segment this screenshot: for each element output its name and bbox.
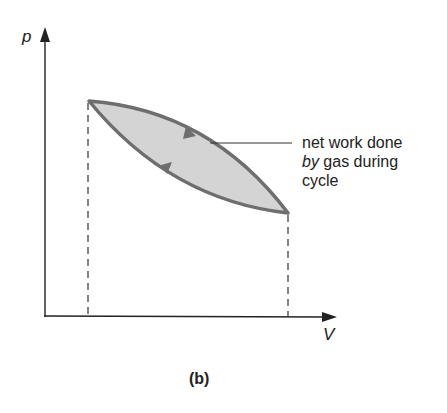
- cycle-area: [89, 101, 288, 213]
- x-axis: [44, 316, 324, 317]
- annotation-by: by: [302, 153, 319, 170]
- annotation-line-3: cycle: [302, 171, 403, 190]
- x-axis-label: V: [323, 325, 334, 344]
- figure-caption: (b): [189, 369, 209, 388]
- annotation-line-1: net work done: [302, 133, 403, 152]
- annotation-line-2: by gas during: [302, 152, 403, 171]
- annotation-text: net work done by gas during cycle: [302, 133, 403, 190]
- annotation-gas-during: gas during: [319, 153, 398, 170]
- y-axis-arrow-icon: [40, 27, 50, 42]
- x-axis-arrow-icon: [322, 312, 337, 322]
- pv-diagram: [0, 0, 447, 413]
- y-axis-label: p: [22, 27, 31, 46]
